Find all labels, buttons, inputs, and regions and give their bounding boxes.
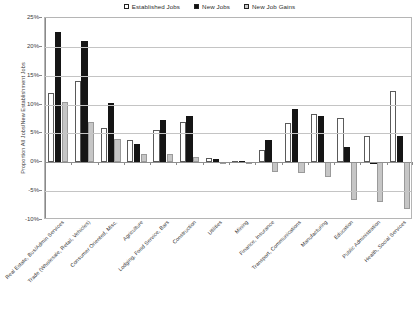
plot-area — [44, 17, 412, 219]
x-axis-labels: Real Estate, Bus/Admin ServicesTrade (Wh… — [44, 219, 412, 309]
bars-layer — [45, 18, 411, 218]
x-axis-category-label: Lodging, Food Service, Bars — [117, 219, 170, 272]
bar — [272, 162, 278, 171]
bar — [186, 116, 192, 163]
bar — [351, 162, 357, 200]
y-tick-mark — [39, 161, 42, 162]
bar — [311, 114, 317, 162]
y-tick-mark — [39, 75, 42, 76]
x-axis-category-label: Construction — [171, 219, 197, 245]
bar — [259, 150, 265, 163]
legend-label-new-jobs: New Jobs — [202, 3, 230, 10]
legend-item-new-jobs: New Jobs — [194, 3, 230, 10]
legend-item-established-jobs: Established Jobs — [124, 3, 180, 10]
x-axis-category-label: Manufacturing — [299, 219, 328, 248]
bar — [48, 93, 54, 162]
bar-chart: Established Jobs New Jobs New Job Gains … — [0, 0, 419, 309]
legend-label-established-jobs: Established Jobs — [132, 3, 180, 10]
gridline — [45, 76, 411, 77]
bar — [141, 154, 147, 163]
bar — [134, 144, 140, 162]
bar — [377, 162, 383, 202]
y-tick-mark — [39, 219, 42, 220]
legend-label-new-job-gains: New Job Gains — [252, 3, 295, 10]
y-tick-label: 25% — [27, 14, 39, 20]
y-tick-mark — [39, 17, 42, 18]
bar — [62, 102, 68, 163]
bar — [180, 122, 186, 162]
gridline — [45, 133, 411, 134]
x-axis-category-label: Transport, Communications — [250, 219, 302, 271]
y-tick-label: -5% — [28, 187, 39, 193]
bar — [344, 147, 350, 162]
gridline — [45, 47, 411, 48]
x-axis-category-label: Utilities — [206, 219, 223, 236]
x-axis-category-label: Mining — [234, 219, 250, 235]
x-axis-category-label: Education — [333, 219, 355, 241]
bar — [364, 136, 370, 163]
bar — [160, 120, 166, 162]
x-tick-mark — [412, 162, 413, 165]
bar — [88, 122, 94, 162]
y-tick-label: 5% — [30, 129, 39, 135]
bar — [265, 140, 271, 163]
bar — [127, 140, 133, 163]
y-axis-ticks: 25%20%15%10%5%0%-5%-10% — [0, 17, 42, 219]
bar — [404, 162, 410, 209]
bar — [325, 162, 331, 177]
y-tick-label: -10% — [25, 216, 39, 222]
y-tick-mark — [39, 132, 42, 133]
chart-legend: Established Jobs New Jobs New Job Gains — [0, 3, 419, 10]
bar — [292, 109, 298, 163]
swatch-established-jobs-icon — [124, 4, 129, 9]
y-tick-mark — [39, 190, 42, 191]
bar — [75, 81, 81, 162]
bar — [285, 123, 291, 162]
bar — [390, 91, 396, 163]
legend-item-new-job-gains: New Job Gains — [244, 3, 295, 10]
gridline — [45, 105, 411, 106]
bar — [114, 139, 120, 163]
zero-baseline — [45, 162, 411, 163]
bar — [81, 41, 87, 163]
y-tick-mark — [39, 46, 42, 47]
y-tick-label: 10% — [27, 101, 39, 107]
bar — [167, 154, 173, 163]
bar — [298, 162, 304, 172]
gridline — [45, 191, 411, 192]
y-tick-label: 20% — [27, 43, 39, 49]
bar — [397, 136, 403, 162]
y-tick-label: 15% — [27, 72, 39, 78]
x-axis-category-label: Agriculture — [121, 219, 144, 242]
x-axis-category-label: Consumer Oriented, Misc. — [69, 219, 118, 268]
bar — [55, 32, 61, 162]
y-tick-label: 0% — [30, 158, 39, 164]
y-tick-mark — [39, 104, 42, 105]
swatch-new-job-gains-icon — [244, 4, 249, 9]
bar — [153, 130, 159, 162]
bar — [337, 118, 343, 162]
swatch-new-jobs-icon — [194, 4, 199, 9]
bar — [318, 116, 324, 162]
